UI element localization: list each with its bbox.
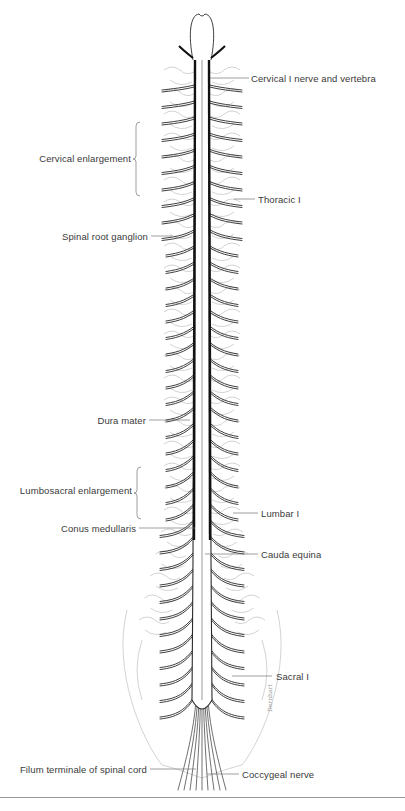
label-spinal-root-ganglion: Spinal root ganglion <box>62 231 148 242</box>
label-cauda-equina: Cauda equina <box>261 549 321 560</box>
label-cervical-i-nerve-and-vertebra: Cervical I nerve and vertebra <box>251 73 376 84</box>
label-coccygeal-nerve: Coccygeal nerve <box>242 769 314 780</box>
bottom-divider <box>0 797 405 798</box>
spinal-cord-illustration: Dernhart <box>0 0 405 811</box>
label-lumbosacral-enlargement: Lumbosacral enlargement <box>20 485 132 496</box>
label-lumbar-i: Lumbar I <box>261 508 299 519</box>
artist-signature: Dernhart <box>266 684 273 712</box>
spinal-cord <box>179 14 225 709</box>
label-dura-mater: Dura mater <box>97 415 146 426</box>
label-thoracic-i: Thoracic I <box>258 194 301 205</box>
label-sacral-i: Sacral I <box>276 671 309 682</box>
spinal-cord-figure: Dernhart Cervical I nerve and vertebraTh… <box>0 0 405 811</box>
medulla-top <box>190 14 213 60</box>
brace-cervical-enlargement <box>133 122 140 196</box>
brace-lumbosacral-enlargement <box>134 467 141 519</box>
label-cervical-enlargement: Cervical enlargement <box>39 153 131 164</box>
label-conus-medullaris: Conus medullaris <box>61 523 136 534</box>
label-filum-terminale-of-spinal-cord: Filum terminale of spinal cord <box>20 764 147 775</box>
